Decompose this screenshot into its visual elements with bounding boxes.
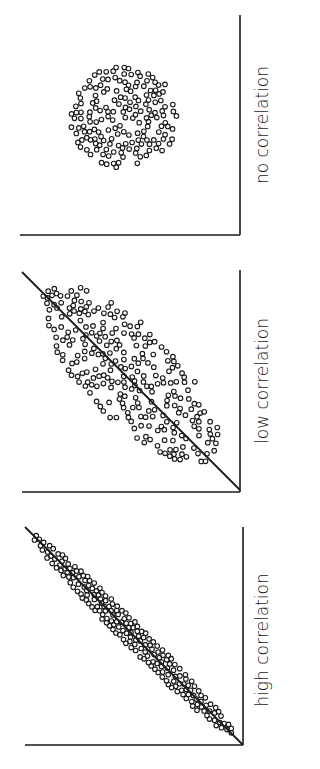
data-point — [171, 668, 176, 673]
data-point — [59, 568, 64, 573]
data-point — [134, 343, 139, 348]
data-point — [94, 86, 99, 91]
data-point — [75, 353, 80, 358]
data-point — [59, 315, 64, 320]
data-point — [128, 100, 133, 105]
data-point — [108, 368, 113, 373]
data-point — [146, 72, 151, 77]
data-point — [78, 145, 83, 150]
data-point — [192, 401, 197, 406]
data-point — [148, 643, 153, 648]
data-point — [196, 451, 201, 456]
data-point — [109, 619, 114, 624]
data-point — [132, 356, 137, 361]
data-point — [122, 350, 127, 355]
data-point — [153, 100, 158, 105]
data-point — [152, 408, 157, 413]
panel-label: high correlation — [252, 573, 272, 706]
data-point — [117, 397, 122, 402]
data-point — [129, 621, 134, 626]
data-point — [189, 407, 194, 412]
data-point — [133, 396, 138, 401]
data-point — [65, 294, 70, 299]
data-point — [75, 293, 80, 298]
data-point — [70, 338, 75, 343]
data-point — [111, 109, 116, 114]
data-point — [127, 107, 132, 112]
data-point — [148, 88, 153, 93]
data-point — [166, 672, 171, 677]
data-point — [69, 289, 74, 294]
data-point — [90, 351, 95, 356]
data-point — [138, 109, 143, 114]
data-point — [129, 364, 134, 369]
data-point — [190, 704, 195, 709]
data-point — [159, 98, 164, 103]
data-point — [100, 590, 105, 595]
data-point — [102, 311, 107, 316]
data-point — [73, 565, 78, 570]
data-point — [82, 129, 87, 134]
data-point — [45, 301, 50, 306]
data-point — [126, 411, 131, 416]
data-point — [197, 427, 202, 432]
data-point — [106, 305, 111, 310]
data-point — [107, 400, 112, 405]
data-point — [93, 608, 98, 613]
data-point — [161, 90, 166, 95]
data-point — [108, 142, 113, 147]
data-point — [171, 425, 176, 430]
data-point — [180, 452, 185, 457]
data-point — [60, 553, 65, 558]
data-point — [212, 448, 217, 453]
data-point — [83, 342, 88, 347]
data-point — [135, 324, 140, 329]
data-point — [126, 83, 131, 88]
data-point — [87, 114, 92, 119]
data-point — [101, 77, 106, 82]
data-point — [67, 306, 72, 311]
data-point — [121, 110, 126, 115]
data-point — [89, 331, 94, 336]
data-point — [116, 160, 121, 165]
data-point — [50, 561, 55, 566]
data-point — [163, 121, 168, 126]
data-point — [95, 384, 100, 389]
data-point — [151, 352, 156, 357]
data-point — [136, 138, 141, 143]
data-point — [96, 352, 101, 357]
data-point — [142, 129, 147, 134]
data-point — [54, 344, 59, 349]
data-point — [170, 127, 175, 132]
data-point — [135, 401, 140, 406]
data-point — [190, 418, 195, 423]
data-point — [172, 452, 177, 457]
data-point — [110, 379, 115, 384]
data-point — [114, 89, 119, 94]
data-point — [102, 373, 107, 378]
data-point — [146, 361, 151, 366]
data-point — [138, 155, 143, 160]
data-point — [113, 359, 118, 364]
data-point — [72, 298, 77, 303]
data-point — [67, 575, 72, 580]
data-point — [114, 346, 119, 351]
data-point — [60, 358, 65, 363]
data-point — [77, 380, 82, 385]
data-point — [176, 364, 181, 369]
panel-label: no correlation — [252, 66, 272, 184]
data-point — [114, 326, 119, 331]
data-point — [118, 95, 123, 100]
data-point — [74, 131, 79, 136]
data-point — [171, 354, 176, 359]
data-point — [106, 77, 111, 82]
data-point — [155, 444, 160, 449]
data-point — [104, 70, 109, 75]
data-point — [166, 393, 171, 398]
data-point — [145, 138, 150, 143]
data-point — [187, 397, 192, 402]
data-point — [143, 415, 148, 420]
data-point — [106, 114, 111, 119]
data-point — [136, 361, 141, 366]
data-point — [114, 415, 119, 420]
